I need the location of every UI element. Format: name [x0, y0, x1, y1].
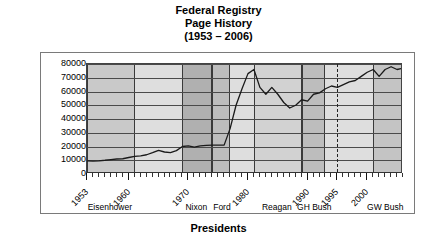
x-tick-minor [277, 173, 278, 177]
x-tick-minor [217, 173, 218, 177]
chart-title-line-3: (1953 – 2006) [0, 30, 437, 43]
x-tick-minor [253, 173, 254, 177]
y-axis-tick-labels: 8000070000600005000040000300002000010000… [46, 57, 86, 179]
x-tick-minor [122, 173, 123, 177]
x-tick-minor [140, 173, 141, 177]
plot-area [86, 63, 402, 173]
chart-title: Federal Registry Page History (1953 – 20… [0, 4, 437, 43]
x-tick-minor [241, 173, 242, 177]
x-tick-minor [396, 173, 397, 177]
y-tick-label: 70000 [61, 73, 86, 82]
x-tick-minor [229, 173, 230, 177]
y-tick-label: 20000 [61, 142, 86, 151]
y-tick-label: 30000 [61, 128, 86, 137]
x-tick-minor [319, 173, 320, 177]
x-tick-minor [295, 173, 296, 177]
x-tick-minor [169, 173, 170, 177]
x-axis-ticks [86, 173, 403, 181]
x-tick-major [86, 173, 87, 180]
x-tick-major [366, 173, 367, 180]
x-tick-minor [92, 173, 93, 177]
x-tick-minor [193, 173, 194, 177]
x-tick-minor [265, 173, 266, 177]
x-tick-minor [289, 173, 290, 177]
x-tick-minor [384, 173, 385, 177]
x-tick-minor [199, 173, 200, 177]
x-tick-minor [158, 173, 159, 177]
x-tick-minor [223, 173, 224, 177]
y-tick-label: 60000 [61, 87, 86, 96]
x-tick-minor [324, 173, 325, 177]
x-tick-minor [110, 173, 111, 177]
y-tick-label: 40000 [61, 114, 86, 123]
x-tick-minor [164, 173, 165, 177]
data-series-line [87, 64, 402, 173]
x-tick-minor [271, 173, 272, 177]
x-tick-major [336, 173, 337, 180]
x-tick-minor [259, 173, 260, 177]
x-tick-minor [313, 173, 314, 177]
y-axis-title-wrapper: Adjusted Page Count [14, 60, 32, 222]
x-tick-minor [378, 173, 379, 177]
chart-title-line-1: Federal Registry [0, 4, 437, 17]
y-tick-label: 10000 [61, 155, 86, 164]
x-tick-minor [211, 173, 212, 177]
x-tick-minor [390, 173, 391, 177]
x-tick-minor [98, 173, 99, 177]
x-tick-minor [354, 173, 355, 177]
x-axis-title: Presidents [0, 222, 437, 234]
x-tick-minor [301, 173, 302, 177]
x-tick-minor [342, 173, 343, 177]
x-tick-major [128, 173, 129, 180]
x-tick-minor [330, 173, 331, 177]
x-tick-minor [283, 173, 284, 177]
x-tick-minor [235, 173, 236, 177]
x-tick-minor [152, 173, 153, 177]
x-tick-minor [116, 173, 117, 177]
x-tick-minor [104, 173, 105, 177]
x-tick-major [187, 173, 188, 180]
x-tick-minor [205, 173, 206, 177]
x-tick-minor [402, 173, 403, 177]
x-tick-minor [360, 173, 361, 177]
y-tick-label: 80000 [61, 59, 86, 68]
x-tick-minor [175, 173, 176, 177]
x-tick-major [307, 173, 308, 180]
chart-title-line-2: Page History [0, 17, 437, 30]
chart-screenshot: Federal Registry Page History (1953 – 20… [0, 0, 437, 240]
x-tick-minor [134, 173, 135, 177]
x-tick-minor [348, 173, 349, 177]
x-tick-minor [146, 173, 147, 177]
x-tick-major [247, 173, 248, 180]
y-tick-label: 50000 [61, 100, 86, 109]
x-tick-minor [372, 173, 373, 177]
x-tick-minor [181, 173, 182, 177]
